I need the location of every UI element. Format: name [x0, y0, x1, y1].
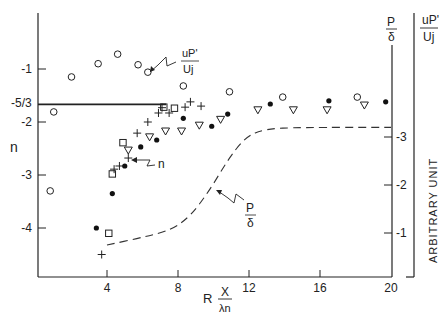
x-axis-label-r: R: [203, 291, 212, 306]
x-tick-label: 16: [313, 281, 327, 295]
annotation-arrowhead-up-uj: [150, 66, 155, 72]
triangle-point: [162, 128, 170, 135]
annotation-n-text: n: [158, 157, 165, 171]
filled-circle-point: [225, 111, 230, 116]
up-label: uP': [422, 13, 439, 27]
right-tick-label: -3: [396, 130, 407, 144]
annotation-p-delta: P δ: [216, 190, 256, 230]
x-axis-label-numerator: X: [221, 285, 229, 299]
open-circle-point: [354, 94, 361, 101]
open-circle-point: [50, 109, 57, 116]
filled-circle-point: [138, 144, 143, 149]
plus-point: [124, 154, 132, 162]
p-label: P: [387, 15, 395, 29]
arbitrary-unit-label: ARBITRARY UNIT: [427, 158, 439, 263]
x-tick-label: 8: [175, 281, 182, 295]
reference-line-label: -5/3: [11, 96, 32, 110]
plus-point: [181, 103, 189, 111]
triangle-point: [195, 122, 203, 129]
triangle-point: [323, 107, 331, 114]
uj-label: Uj: [423, 30, 434, 44]
x-tick-label: 4: [104, 281, 111, 295]
open-circle-point: [145, 69, 152, 76]
annotation-uj-text: Uj: [183, 63, 193, 75]
triangle-point: [146, 134, 154, 141]
plus-point: [133, 129, 141, 137]
square-point: [171, 105, 177, 111]
open-circle-point: [68, 74, 75, 81]
open-circle-point: [135, 61, 142, 68]
plus-point: [186, 98, 194, 106]
x-axis-label-denominator: λn: [219, 302, 231, 314]
left-axis-label: n: [10, 139, 18, 155]
filled-circle-point: [154, 137, 159, 142]
square-point: [106, 230, 112, 236]
annotation-delta-text: δ: [247, 216, 254, 230]
annotation-arrow-p-delta: [218, 191, 244, 203]
square-point: [120, 139, 126, 145]
open-circle-point: [226, 88, 233, 95]
right-tick-label: -2: [396, 178, 407, 192]
annotation-arrowhead-p-delta: [216, 190, 222, 195]
right-inner-axis-label: P δ: [386, 15, 397, 44]
plus-point: [144, 118, 152, 126]
right-outer-axis-label: uP' Uj ARBITRARY UNIT: [420, 13, 439, 263]
left-tick-label: -3: [21, 168, 32, 182]
annotation-n: n: [131, 157, 165, 171]
x-tick-label: 12: [242, 281, 256, 295]
left-tick-label: -2: [21, 115, 32, 129]
open-circle-point: [114, 51, 121, 58]
left-tick-label: -4: [21, 221, 32, 235]
triangle-point: [124, 147, 132, 154]
left-tick-label: -1: [21, 62, 32, 76]
annotation-p-text: P: [246, 201, 254, 215]
filled-circle-point: [181, 116, 186, 121]
filled-circle-point: [268, 101, 273, 106]
triangle-point: [289, 107, 297, 114]
open-circle-point: [180, 83, 187, 90]
x-axis-label: R X λn: [203, 285, 232, 314]
plus-point: [197, 102, 205, 110]
axes: [38, 13, 414, 277]
open-circle-point: [95, 60, 102, 67]
filled-circle-point: [110, 191, 115, 196]
triangle-point: [360, 102, 368, 109]
annotation-up-text: uP': [182, 47, 198, 59]
triangle-point: [178, 128, 186, 135]
filled-circle-point: [209, 124, 214, 129]
chart: 48121620 -1-2-3-4 -1-2-3 -5/3 n R X λn P…: [0, 0, 446, 321]
triangle-point: [254, 107, 262, 114]
right-tick-label: -1: [396, 226, 407, 240]
delta-label: δ: [388, 30, 395, 44]
annotation-up-uj: uP' Uj: [150, 47, 199, 75]
x-tick-label: 20: [384, 281, 398, 295]
filled-circle-point: [94, 225, 99, 230]
filled-circle-point: [326, 98, 331, 103]
open-circle-point: [279, 94, 286, 101]
triangle-point: [217, 116, 225, 123]
plus-point: [98, 251, 106, 259]
filled-circle-point: [383, 99, 388, 104]
open-circle-point: [47, 188, 54, 195]
